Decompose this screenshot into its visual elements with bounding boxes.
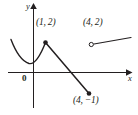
open-point-4-2 <box>89 42 93 46</box>
right-line-segment <box>94 38 131 45</box>
x-axis-label: x <box>128 74 132 83</box>
origin-label: 0 <box>22 74 27 83</box>
piecewise-function-figure: (1, 2) (4, 2) (4, −1) y x 0 <box>0 0 138 115</box>
point-label-peak: (1, 2) <box>36 18 55 28</box>
y-axis-label: y <box>26 2 30 11</box>
graph-canvas <box>0 0 138 115</box>
y-axis-arrowhead <box>30 3 37 9</box>
point-label-closed-low: (4, −1) <box>73 96 99 106</box>
parabola-branch-curve <box>11 40 46 64</box>
point-label-open: (4, 2) <box>83 18 102 28</box>
descending-line-segment <box>46 43 90 94</box>
filled-point-1-2 <box>43 40 48 45</box>
